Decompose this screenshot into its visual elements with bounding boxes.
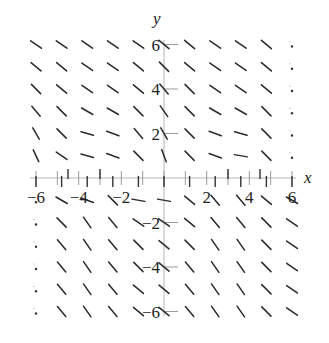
slope-dot: [289, 108, 290, 109]
slope-segment: [211, 218, 219, 228]
slope-segment: [81, 154, 94, 157]
slope-segment: [262, 285, 271, 294]
slope-segment: [31, 63, 41, 71]
x-tick-label: −4: [70, 188, 89, 207]
slope-segment: [109, 240, 117, 250]
slope-segment: [235, 108, 246, 115]
slope-segment: [31, 41, 42, 48]
slope-segment: [56, 152, 67, 159]
slope-segment: [235, 132, 248, 135]
slope-segment: [31, 84, 40, 93]
slope-segment: [211, 284, 218, 295]
y-tick-label: 4: [152, 80, 161, 99]
slope-segment: [185, 107, 194, 116]
y-tick-label: 2: [152, 125, 161, 144]
slope-dot: [291, 90, 293, 92]
slope-segment: [56, 41, 67, 48]
slope-segment: [82, 63, 93, 70]
y-tick-label: −2: [142, 214, 160, 233]
slope-segment: [210, 63, 221, 70]
slope-segment: [185, 40, 195, 48]
slope-segment: [109, 262, 117, 272]
slope-dot: [35, 312, 37, 314]
slope-segment: [185, 84, 194, 93]
slope-segment: [57, 107, 66, 116]
slope-segment: [107, 85, 118, 92]
slope-segment: [210, 41, 221, 48]
slope-segment: [109, 307, 117, 317]
slope-segment: [211, 239, 218, 250]
slope-segment: [133, 63, 143, 71]
slope-segment: [57, 307, 65, 317]
slope-segment: [109, 218, 117, 228]
slope-dot: [289, 130, 290, 131]
slope-segment: [134, 129, 142, 139]
slope-segment: [210, 85, 221, 92]
slope-segment: [262, 151, 271, 160]
y-axis-title: y: [151, 9, 161, 28]
slope-segment: [211, 262, 218, 273]
axis-labels: x y: [151, 9, 312, 187]
slope-segment: [287, 308, 298, 315]
slope-segment: [211, 195, 219, 205]
slope-field-chart: x y −6−4−2246−6−4−2246: [0, 0, 329, 343]
x-tick-label: −2: [112, 188, 130, 207]
slope-segment: [234, 155, 247, 157]
x-axis-title: x: [303, 168, 312, 187]
slope-segment: [185, 63, 195, 71]
slope-segment: [57, 284, 65, 294]
slope-segment: [209, 131, 221, 135]
slope-segment: [109, 284, 117, 294]
slope-dot: [33, 286, 34, 287]
slope-segment: [81, 132, 94, 135]
slope-segment: [83, 217, 90, 228]
slope-dot: [291, 45, 293, 47]
slope-segment: [237, 239, 244, 250]
slope-segment: [210, 108, 221, 115]
slope-segment: [134, 240, 143, 249]
slope-segment: [83, 284, 90, 295]
x-tick-label: −6: [27, 188, 45, 207]
slope-segment: [262, 307, 271, 316]
slope-segment: [32, 106, 40, 116]
slope-dot: [33, 241, 34, 242]
slope-segment: [262, 262, 271, 271]
slope-segment: [57, 262, 65, 272]
slope-segment: [235, 41, 246, 48]
slope-segment: [237, 218, 245, 228]
slope-segment: [237, 262, 244, 273]
slope-segment: [287, 263, 298, 270]
slope-segment: [261, 196, 271, 204]
y-tick-label: −6: [142, 303, 160, 322]
slope-segment: [287, 219, 298, 226]
slope-segment: [57, 240, 65, 250]
slope-segment: [107, 108, 118, 115]
slope-segment: [133, 285, 143, 293]
slope-segment: [134, 151, 143, 160]
slope-segment: [261, 63, 271, 71]
slope-segment: [57, 85, 67, 93]
slope-segment: [132, 199, 145, 201]
slope-dot: [35, 246, 37, 248]
axes: [30, 40, 296, 316]
slope-segment: [262, 129, 271, 138]
slope-segment: [261, 40, 271, 48]
slope-segment: [185, 284, 193, 294]
slope-segment: [133, 41, 144, 48]
slope-segment: [185, 240, 194, 249]
slope-segment: [83, 239, 90, 250]
slope-segment: [107, 41, 118, 48]
slope-segment: [82, 41, 93, 48]
slope-segment: [185, 151, 194, 160]
slope-segment: [133, 85, 143, 93]
slope-segment: [82, 85, 93, 92]
slope-segment: [237, 284, 244, 295]
slope-dot: [289, 63, 290, 64]
slope-segment: [211, 306, 218, 317]
slope-segment: [235, 85, 246, 92]
x-tick-label: 6: [288, 188, 297, 207]
slope-segment: [107, 154, 119, 158]
y-tick-label: −4: [142, 258, 161, 277]
slope-segment: [57, 218, 66, 227]
slope-segment: [57, 129, 66, 138]
